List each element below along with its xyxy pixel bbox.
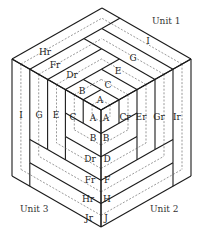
- right-piece-label: Cr: [119, 112, 131, 122]
- right-strip-edge: [101, 176, 191, 227]
- right-piece-label: A: [102, 113, 110, 123]
- left-strip-edge: [83, 123, 101, 133]
- top-strip-edge: [101, 90, 119, 100]
- top-piece-label: C: [105, 80, 112, 90]
- top-piece-label: Dr: [66, 70, 78, 80]
- right-piece-label: F: [104, 175, 110, 185]
- right-piece-label: Er: [136, 112, 148, 122]
- right-piece-label: D: [103, 154, 110, 164]
- log-cabin-diagram: ABCDrEFrGHrIABCDrEFrGHrIJrABCrDErFGrHIrJ…: [0, 0, 200, 236]
- top-piece-label: Hr: [39, 47, 52, 57]
- right-strip-edge: [101, 163, 173, 204]
- top-guide: [57, 59, 102, 85]
- left-piece-label: B: [90, 133, 97, 143]
- right-piece-label: Gr: [153, 112, 165, 122]
- top-piece-label: E: [115, 66, 122, 76]
- left-piece-label: C: [70, 112, 77, 122]
- left-piece-label: Dr: [84, 154, 96, 164]
- top-piece-label: A: [96, 95, 104, 105]
- right-piece-label: J: [103, 213, 108, 223]
- left-piece-label: Jr: [84, 213, 94, 223]
- left-piece-label: Fr: [85, 175, 96, 185]
- top-seam: [102, 18, 120, 28]
- right-strip-edge: [101, 123, 119, 133]
- unit-label: Unit 1: [152, 16, 180, 26]
- left-piece-label: I: [19, 110, 23, 120]
- unit-label: Unit 2: [150, 204, 178, 214]
- top-guide: [21, 18, 102, 64]
- left-piece-label: G: [35, 110, 42, 120]
- left-piece-label: E: [53, 110, 60, 120]
- right-piece-label: H: [103, 194, 111, 204]
- top-strip-edge: [12, 8, 102, 59]
- top-seam: [83, 79, 101, 89]
- top-piece-label: B: [79, 86, 86, 96]
- top-piece-label: Fr: [50, 60, 61, 70]
- right-piece-label: B: [103, 133, 110, 143]
- top-piece-label: G: [129, 53, 136, 63]
- left-guide: [74, 130, 101, 145]
- top-piece-label: I: [146, 36, 150, 46]
- right-piece-label: Ir: [173, 112, 182, 122]
- unit-label: Unit 3: [20, 204, 49, 214]
- left-piece-label: A: [89, 113, 97, 123]
- left-piece-label: Hr: [82, 194, 95, 204]
